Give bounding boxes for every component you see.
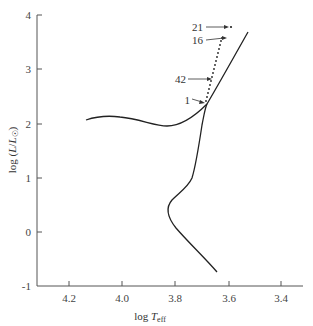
y-tick-label: -1	[22, 280, 31, 292]
y-tick-label: 3	[26, 63, 32, 75]
x-tick-label: 3.4	[274, 292, 288, 304]
y-axis-title: log (L/L☉)	[6, 126, 20, 173]
y-tick-label: 4	[26, 9, 32, 21]
x-tick-label: 3.6	[222, 292, 236, 304]
x-tick-label: 4.2	[62, 292, 76, 304]
annotation-1: 1	[185, 94, 191, 106]
y-ticks: 4 3 2 1 0 -1	[22, 9, 42, 292]
y-tick-label: 0	[26, 226, 32, 238]
dotted-star-sequence	[205, 26, 232, 102]
y-tick-label: 2	[26, 118, 32, 130]
x-axis-title: log Teff	[134, 310, 166, 324]
x-tick-label: 3.8	[168, 292, 182, 304]
hr-diagram-chart: 4 3 2 1 0 -1 4.2 4.0 3.8 3.6 3.4 log Tef…	[0, 0, 313, 326]
x-tick-label: 4.0	[115, 292, 129, 304]
x-ticks: 4.2 4.0 3.8 3.6 3.4	[62, 281, 288, 304]
annotations: 21 16 42 1	[175, 21, 229, 106]
annotation-42: 42	[175, 73, 186, 85]
evolutionary-track	[168, 32, 248, 272]
y-tick-label: 1	[26, 172, 32, 184]
horizontal-branch	[86, 104, 207, 126]
annotation-21: 21	[192, 21, 203, 33]
annotation-16: 16	[192, 34, 204, 46]
